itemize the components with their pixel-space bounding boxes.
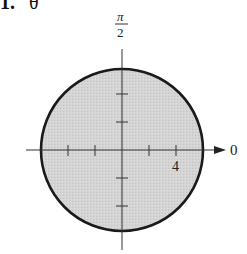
arrow-right-icon <box>214 146 226 154</box>
pi-over-2-numerator: π <box>117 9 124 24</box>
polar-graph: 4 0 π 2 <box>0 0 247 254</box>
radial-tick-label: 4 <box>172 159 179 174</box>
polar-axis-label: 0 <box>230 142 238 158</box>
pi-over-2-denominator: 2 <box>117 25 124 40</box>
